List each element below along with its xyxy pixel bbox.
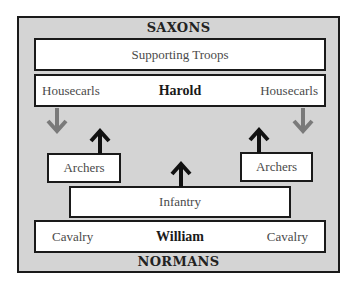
archers-left-text: Archers — [63, 160, 104, 176]
archers-left-box: Archers — [47, 153, 121, 183]
harold: Harold — [159, 83, 202, 99]
arrow-up-archers-right-icon — [248, 127, 270, 153]
supporting-troops-text: Supporting Troops — [131, 47, 228, 63]
arrow-up-infantry-icon — [170, 161, 192, 187]
infantry-text: Infantry — [159, 194, 201, 210]
cavalry-left: Cavalry — [52, 229, 93, 245]
arrow-down-left-icon — [46, 108, 68, 134]
housecarls-right: Housecarls — [260, 83, 318, 99]
william: William — [156, 229, 204, 245]
supporting-troops-box: Supporting Troops — [34, 38, 326, 71]
archers-right-text: Archers — [256, 159, 297, 175]
normans-label: NORMANS — [19, 254, 338, 269]
archers-right-box: Archers — [240, 152, 313, 182]
arrow-down-right-icon — [292, 108, 314, 134]
saxon-line-box: Housecarls Harold Housecarls — [34, 74, 326, 107]
saxons-label: SAXONS — [19, 20, 338, 35]
cavalry-right: Cavalry — [267, 229, 308, 245]
infantry-box: Infantry — [69, 186, 291, 218]
arrow-up-archers-left-icon — [89, 128, 111, 154]
housecarls-left: Housecarls — [42, 83, 100, 99]
norman-line-box: Cavalry William Cavalry — [34, 220, 326, 253]
